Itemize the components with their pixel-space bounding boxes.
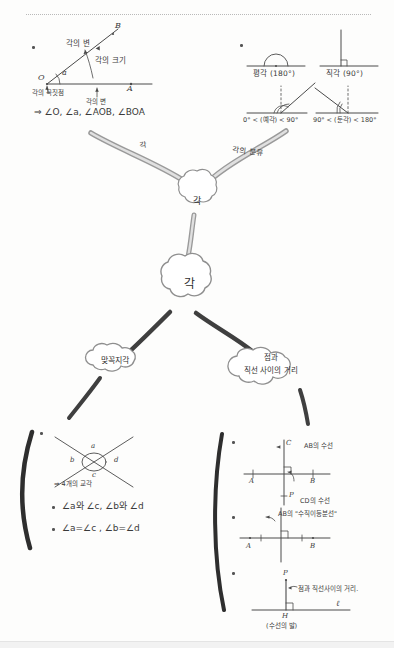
bubble-label-left-lower: 맞꼭지각 <box>90 356 140 366</box>
bisector-point-label-b: B <box>310 543 315 550</box>
handdrawn-strokes-layer <box>0 0 394 648</box>
distance-line-label: ℓ <box>336 600 339 608</box>
perp-point-label-a: A <box>249 478 254 485</box>
bubble-label-center-lower: 각 <box>173 277 205 292</box>
branch-right-tail <box>300 390 308 424</box>
angle-notation-line: ⇒ ∠O, ∠a, ∠AOB, ∠BOA <box>34 108 145 117</box>
bullet-marker-angle-types <box>240 44 243 47</box>
branch-left-upper <box>91 133 186 182</box>
perp-point-label-c: C <box>286 440 291 447</box>
label-lower-side: 각의 변 <box>86 99 106 106</box>
vertical-angle-note: ⇒ 4개의 교각 <box>54 481 92 488</box>
caption-acute-angle: 0° < (예각) < 90° <box>243 117 298 124</box>
bubble-label-right-lower-line1: 점과 <box>235 353 307 362</box>
bullet-marker-perpendicular <box>232 441 235 444</box>
obtuse-angle-drawing <box>315 86 378 113</box>
point-label-a: A <box>127 85 133 93</box>
label-upper-side: 각의 변 <box>66 40 90 48</box>
caption-right-angle: 직각 (90°) <box>326 70 363 78</box>
bisector-label: AB의 "수직이등분선" <box>278 511 337 518</box>
straight-angle-drawing <box>247 54 305 67</box>
branch-left-lower <box>129 312 170 352</box>
vertical-angle-label-c: c <box>92 472 96 479</box>
point-label-o: O <box>38 74 45 82</box>
distance-label: 점과 직선사이의 거리. <box>298 586 358 593</box>
branch-left-tail <box>69 378 100 418</box>
caption-obtuse-angle: 90° < (둔각) < 180° <box>313 117 376 124</box>
caption-straight-angle: 평각 (180°) <box>253 70 295 78</box>
vertical-angle-label-d: d <box>114 457 118 464</box>
bullet-marker-distance <box>232 572 235 575</box>
bullet-marker-vertical-angles <box>40 432 43 435</box>
bubble-label-center-upper: 각 <box>184 196 210 207</box>
perp-point-label-b: B <box>310 478 315 485</box>
right-angle-drawing <box>320 30 378 66</box>
branch-label-right-top: 각의 분류 <box>232 148 263 156</box>
distance-point-label-p: P <box>283 570 288 577</box>
distance-foot-label: (수선의 발) <box>266 623 297 630</box>
acute-angle-drawing <box>247 83 315 113</box>
vertical-angle-pair-line: ∠a와 ∠c, ∠b와 ∠d <box>62 502 144 511</box>
bullet-marker-equality <box>52 528 55 531</box>
vertical-angle-equality-line: ∠a=∠c , ∠b=∠d <box>62 524 140 533</box>
perp-label-ab: AB의 수선 <box>304 443 333 450</box>
point-label-b: B <box>115 22 121 30</box>
branch-right-lower <box>196 313 252 351</box>
label-angle-size: 각의 크기 <box>95 57 126 65</box>
bullet-marker-angle-def <box>32 46 35 49</box>
angle-symbol-alpha: a <box>62 69 67 77</box>
bisector-point-label-a: A <box>246 543 251 550</box>
branch-label-left-top: 각 <box>140 142 147 150</box>
perp-label-cd: CD의 수선 <box>300 498 330 505</box>
bubble-label-right-lower-line2: 직선 사이의 거리 <box>231 366 311 375</box>
distance-point-label-h: H <box>282 613 288 620</box>
bullet-marker-bisector <box>232 516 235 519</box>
left-section-bracket <box>22 432 32 548</box>
vertical-angle-label-a: a <box>91 443 95 450</box>
vertical-angle-label-b: b <box>70 457 74 464</box>
notebook-page: 각의 변 각의 크기 각의 꼭짓점 각의 변 O A B a ⇒ ∠O, ∠a,… <box>0 0 394 648</box>
perp-point-label-p: P <box>289 492 294 499</box>
right-section-bracket <box>215 434 224 610</box>
label-vertex: 각의 꼭짓점 <box>32 90 64 97</box>
branch-right-upper <box>208 131 286 182</box>
bullet-marker-pair <box>52 506 55 509</box>
